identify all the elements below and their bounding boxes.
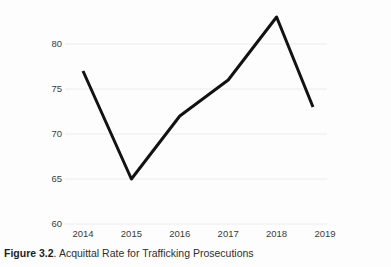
x-axis-tick-labels: 201420152016201720182019	[0, 228, 391, 242]
x-tick-label: 2015	[121, 228, 142, 239]
figure-container: 6065707580 201420152016201720182019 Figu…	[0, 0, 391, 267]
y-tick-label: 70	[36, 129, 62, 139]
y-axis-tick-labels: 6065707580	[34, 0, 62, 240]
x-tick-label: 2016	[169, 228, 190, 239]
x-tick-label: 2014	[72, 228, 93, 239]
figure-caption-text: Acquittal Rate for Trafficking Prosecuti…	[59, 247, 254, 259]
x-tick-label: 2018	[266, 228, 287, 239]
line-chart: 6065707580 201420152016201720182019	[0, 0, 391, 240]
y-tick-label: 75	[36, 84, 62, 94]
x-tick-label: 2019	[314, 228, 335, 239]
x-tick-label: 2017	[218, 228, 239, 239]
figure-caption-label: Figure 3.2	[4, 247, 54, 259]
figure-caption: Figure 3.2. Acquittal Rate for Trafficki…	[4, 246, 387, 260]
y-tick-label: 65	[36, 174, 62, 184]
y-tick-label: 80	[36, 39, 62, 49]
